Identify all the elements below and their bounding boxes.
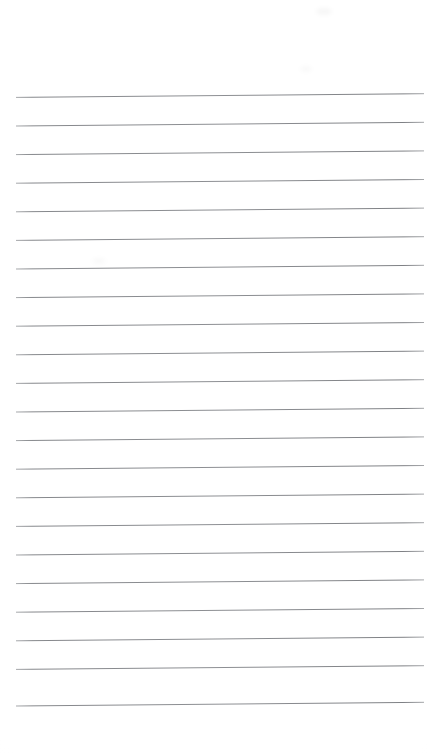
rule-line: [16, 523, 424, 527]
rule-line: [16, 351, 424, 355]
rule-line: [16, 551, 424, 555]
rule-line: [16, 702, 424, 706]
rule-line: [16, 466, 424, 470]
rule-line: [16, 637, 424, 641]
rule-line: [16, 437, 424, 441]
rule-line: [16, 180, 424, 184]
rule-line: [16, 609, 424, 613]
rule-line: [16, 580, 424, 584]
rule-line: [16, 380, 424, 384]
rule-line: [16, 494, 424, 498]
rule-line: [16, 208, 424, 212]
ruled-lines-layer: [0, 0, 428, 754]
rule-line: [16, 666, 424, 670]
rule-line: [16, 237, 424, 241]
rule-line: [16, 151, 424, 155]
rule-line: [16, 323, 424, 327]
rule-line: [16, 265, 424, 269]
rule-line: [16, 408, 424, 412]
rule-line: [16, 94, 424, 98]
rule-line: [16, 294, 424, 298]
rule-line: [16, 122, 424, 126]
notebook-page: [0, 0, 428, 754]
rule-line-group: [16, 94, 424, 706]
